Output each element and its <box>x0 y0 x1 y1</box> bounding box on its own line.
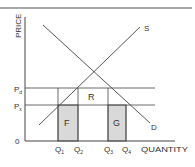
supply-label: S <box>144 24 149 33</box>
quantity-label-q1: Q1 <box>55 145 64 155</box>
demand-label: D <box>151 123 157 132</box>
quantity-label-q4: Q4 <box>122 145 131 155</box>
price-label-pd: Pd <box>14 85 22 95</box>
origin-label: 0 <box>15 137 20 146</box>
quantity-label-q3: Q3 <box>104 145 113 155</box>
region-r-label: R <box>88 92 95 102</box>
region-g-label: G <box>113 118 120 128</box>
quantity-label-q2: Q2 <box>74 145 83 155</box>
supply-demand-diagram: PRICE Pd Px 0 Q1 Q2 Q3 Q4 QUANTITY S D F… <box>0 0 195 167</box>
region-f-label: F <box>64 118 70 128</box>
x-axis-label: QUANTITY <box>141 146 188 154</box>
y-axis-label: PRICE <box>14 14 23 38</box>
price-label-px: Px <box>14 102 22 112</box>
